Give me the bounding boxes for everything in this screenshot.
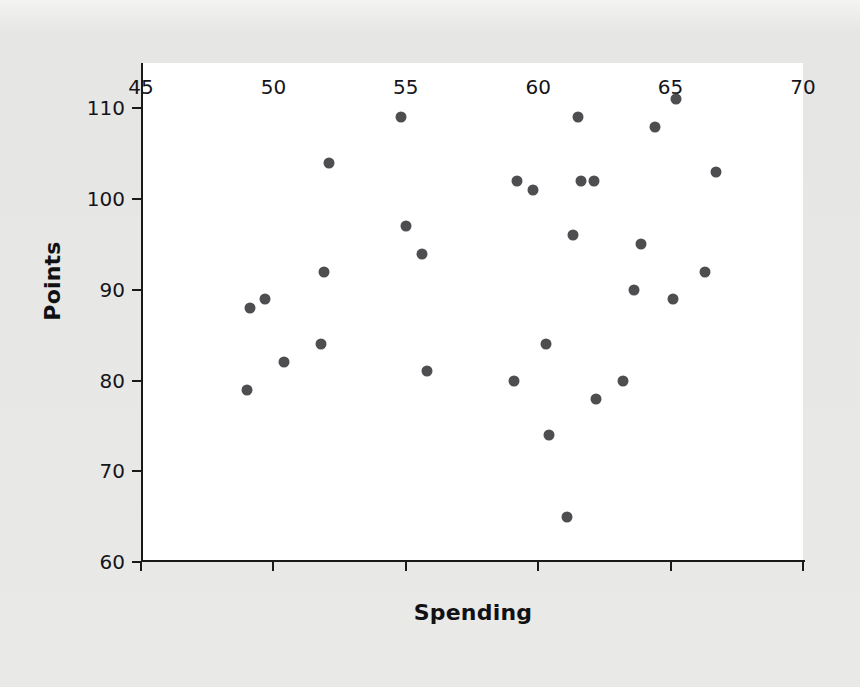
- data-point: [416, 248, 427, 259]
- data-point: [670, 94, 681, 105]
- y-tick-70: [132, 470, 141, 472]
- plot-area: 60708090100110 455055606570: [141, 63, 803, 562]
- y-axis-line: [141, 63, 143, 562]
- data-point: [241, 384, 252, 395]
- x-tick-label-55: 55: [393, 75, 418, 99]
- y-axis-title: Points: [40, 241, 65, 320]
- data-point: [575, 175, 586, 186]
- data-point: [400, 221, 411, 232]
- x-tick-65: [670, 562, 672, 571]
- data-point: [324, 157, 335, 168]
- data-point: [617, 375, 628, 386]
- data-point: [527, 185, 538, 196]
- x-axis-line: [141, 560, 805, 562]
- data-point: [700, 266, 711, 277]
- y-tick-110: [132, 107, 141, 109]
- x-tick-50: [272, 562, 274, 571]
- data-point: [562, 511, 573, 522]
- data-point: [567, 230, 578, 241]
- data-point: [710, 166, 721, 177]
- data-point: [244, 302, 255, 313]
- data-point: [628, 284, 639, 295]
- data-point: [541, 339, 552, 350]
- data-point: [649, 121, 660, 132]
- x-tick-label-45: 45: [128, 75, 153, 99]
- y-tick-label-60: 60: [100, 550, 125, 574]
- data-point: [278, 357, 289, 368]
- x-tick-55: [405, 562, 407, 571]
- data-point: [668, 293, 679, 304]
- x-tick-70: [802, 562, 804, 571]
- x-axis-title: Spending: [141, 600, 805, 625]
- data-point: [591, 393, 602, 404]
- y-tick-label-100: 100: [87, 187, 125, 211]
- y-tick-90: [132, 289, 141, 291]
- data-point: [543, 429, 554, 440]
- x-tick-label-50: 50: [261, 75, 286, 99]
- data-point: [318, 266, 329, 277]
- data-point: [260, 293, 271, 304]
- data-point: [509, 375, 520, 386]
- data-point: [636, 239, 647, 250]
- x-tick-label-70: 70: [790, 75, 815, 99]
- y-tick-100: [132, 198, 141, 200]
- data-point: [316, 339, 327, 350]
- y-tick-80: [132, 380, 141, 382]
- data-point: [512, 175, 523, 186]
- data-point: [588, 175, 599, 186]
- y-tick-label-70: 70: [100, 459, 125, 483]
- data-point: [572, 112, 583, 123]
- data-point: [421, 366, 432, 377]
- x-tick-45: [140, 562, 142, 571]
- y-tick-label-80: 80: [100, 369, 125, 393]
- y-tick-label-90: 90: [100, 278, 125, 302]
- y-tick-label-110: 110: [87, 96, 125, 120]
- x-tick-60: [537, 562, 539, 571]
- data-point: [395, 112, 406, 123]
- scatter-plot-figure: Points Spending 60708090100110 455055606…: [0, 0, 860, 687]
- x-tick-label-60: 60: [525, 75, 550, 99]
